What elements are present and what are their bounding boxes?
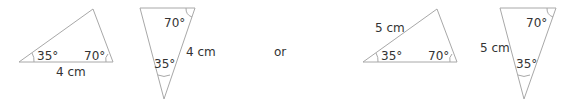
t4-side: 5 cm bbox=[480, 42, 510, 54]
t3-angle-left: 35° bbox=[381, 50, 402, 62]
or-text: or bbox=[274, 46, 286, 58]
t3-side: 5 cm bbox=[375, 22, 405, 34]
t2-angle-bottom: 35° bbox=[154, 58, 175, 70]
t1-side: 4 cm bbox=[56, 66, 86, 78]
t4-angle-bottom: 35° bbox=[516, 58, 537, 70]
t1-angle-right: 70° bbox=[84, 50, 105, 62]
t3-angle-right: 70° bbox=[428, 50, 449, 62]
t1-angle-left: 35° bbox=[37, 50, 58, 62]
t4-angle-top: 70° bbox=[526, 17, 547, 29]
t2-angle-top: 70° bbox=[164, 17, 185, 29]
t2-side: 4 cm bbox=[186, 46, 216, 58]
